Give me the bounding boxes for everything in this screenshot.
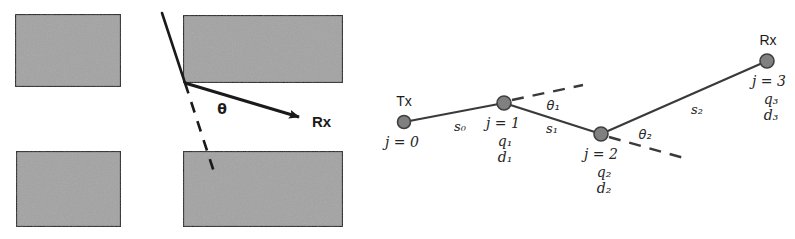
rx-label: Rx (759, 32, 776, 48)
node-j0-index-label: j = 0 (382, 134, 419, 150)
figure-canvas: θ Rx Tx Rx j = 0 j = 1 q₁ d₁ j = 2 q₂ d₂… (0, 0, 795, 239)
segment-s2 (601, 61, 767, 134)
block-top-left (15, 14, 121, 87)
left-rx-label: Rx (312, 113, 332, 130)
node-j2-d-label: d₂ (597, 180, 612, 196)
node-j3-q-label: q₃ (764, 91, 779, 107)
block-bottom-left (16, 151, 121, 227)
angle-theta-2-label: θ₂ (638, 127, 651, 142)
node-j1-d-label: d₁ (498, 149, 513, 165)
angle-theta-1-label: θ₁ (546, 98, 559, 113)
block-top-right (183, 15, 343, 83)
node-j3-d-label: d₃ (764, 107, 779, 123)
node-j2-q-label: q₂ (597, 164, 612, 180)
diffraction-angle-label: θ (217, 101, 227, 117)
node-j3-index-label: j = 3 (749, 73, 786, 89)
tx-label: Tx (396, 93, 412, 109)
wedge-diffraction-diagram: θ Rx (15, 13, 343, 227)
figure-root: θ Rx Tx Rx j = 0 j = 1 q₁ d₁ j = 2 q₂ d₂… (0, 0, 795, 239)
node-j0-tx (398, 116, 411, 129)
node-j2-index-label: j = 2 (581, 146, 618, 162)
node-j2 (594, 127, 608, 141)
segment-s0-label: s₀ (454, 119, 467, 134)
multihop-ray-path-diagram: Tx Rx j = 0 j = 1 q₁ d₁ j = 2 q₂ d₂ j = … (382, 32, 786, 196)
incident-ray (162, 13, 185, 83)
node-j1-q-label: q₁ (498, 133, 513, 149)
node-j1-index-label: j = 1 (483, 115, 520, 131)
segment-s2-label: s₂ (691, 102, 703, 117)
segment-s1-label: s₁ (546, 121, 558, 136)
diffracted-ray-arrow (185, 83, 299, 117)
node-j1 (497, 96, 511, 110)
node-j3-rx (760, 54, 774, 68)
block-bottom-right (183, 151, 343, 227)
